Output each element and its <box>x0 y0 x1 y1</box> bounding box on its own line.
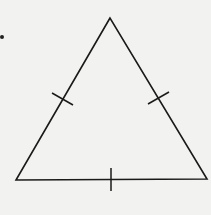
tick-mark-left <box>52 93 73 105</box>
diagram-canvas <box>0 0 211 215</box>
triangle-figure <box>0 0 211 215</box>
tick-mark-right <box>148 92 169 104</box>
stray-dot <box>0 35 4 39</box>
triangle-outline <box>16 18 207 180</box>
